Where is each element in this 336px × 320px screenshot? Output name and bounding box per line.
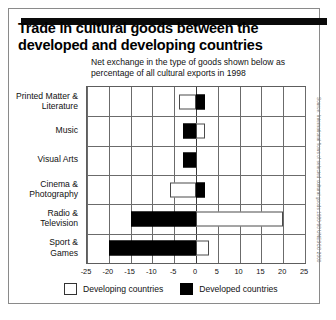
bar-developed: [183, 123, 196, 138]
chart-figure: Trade in cultural goods between the deve…: [8, 8, 320, 304]
chart-subtitle: Net exchange in the type of goods shown …: [91, 57, 306, 80]
x-tick-label: -25: [81, 267, 92, 276]
x-tick-label: 0: [193, 267, 197, 276]
gridline-vertical: [305, 87, 306, 263]
x-tick-label: 20: [278, 267, 286, 276]
x-tick-label: -5: [170, 267, 177, 276]
chart-row: [87, 146, 305, 175]
x-tick-label: -15: [124, 267, 135, 276]
bar-developing: [170, 182, 196, 197]
legend-item-developing: Developing countries: [64, 283, 163, 295]
bar-developing: [196, 123, 205, 138]
x-tick-label: 15: [256, 267, 264, 276]
category-label: Printed Matter &Literature: [0, 90, 78, 111]
bar-developing: [196, 241, 209, 256]
source-note: Source: International flows of selected …: [316, 97, 321, 262]
category-label: Music: [0, 125, 78, 135]
legend-swatch-developing: [64, 283, 77, 295]
legend-label-developing: Developing countries: [83, 284, 163, 294]
category-label: Visual Arts: [0, 154, 78, 164]
bar-developing: [196, 211, 283, 226]
category-label: Radio &Television: [0, 208, 78, 229]
chart-legend: Developing countries Developed countries: [64, 283, 278, 295]
chart-row: [87, 175, 305, 204]
chart-row: [87, 116, 305, 145]
bar-developed: [131, 211, 196, 226]
legend-item-developed: Developed countries: [180, 283, 277, 295]
plot-area: [86, 86, 306, 264]
bar-developed: [183, 153, 196, 168]
x-tick-label: 10: [234, 267, 242, 276]
chart-row: [87, 87, 305, 116]
category-label: Sport &Games: [0, 237, 78, 258]
legend-label-developed: Developed countries: [199, 284, 277, 294]
category-label: Cinema &Photography: [0, 178, 78, 199]
bar-developed: [196, 94, 205, 109]
x-tick-label: -20: [102, 267, 113, 276]
x-tick-label: 5: [215, 267, 219, 276]
chart-title: Trade in cultural goods between the deve…: [18, 20, 306, 54]
bar-developed: [109, 241, 196, 256]
legend-swatch-developed: [180, 283, 193, 295]
bar-developed: [196, 182, 205, 197]
x-tick-label: -10: [146, 267, 157, 276]
bar-developing: [179, 94, 196, 109]
chart-row: [87, 204, 305, 233]
x-tick-label: 25: [300, 267, 308, 276]
chart-row: [87, 234, 305, 263]
